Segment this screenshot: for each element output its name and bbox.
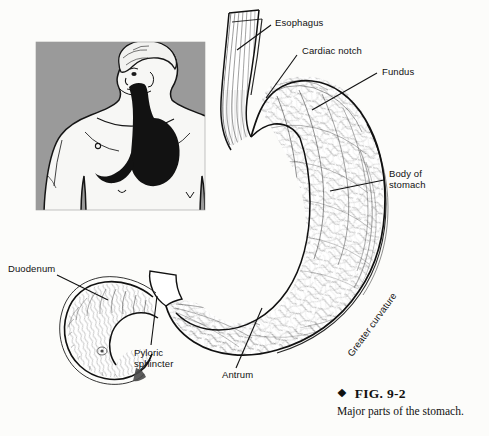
eye: [131, 72, 136, 76]
duodenum-structure: [60, 271, 182, 390]
label-body-of-stomach: Body of stomach: [389, 168, 426, 190]
esophagus-structure: [218, 10, 262, 152]
floral-diamond-icon: ❖: [337, 387, 347, 399]
figure-number: FIG. 9-2: [355, 386, 406, 401]
figure-container: Esophagus Cardiac notch Fundus Body of s…: [0, 0, 489, 436]
label-pyloric-sphincter: Pyloric sphincter: [134, 347, 173, 369]
label-esophagus: Esophagus: [275, 17, 323, 28]
figure-caption: ❖ FIG. 9-2 Major parts of the stomach.: [337, 386, 464, 417]
label-antrum: Antrum: [222, 369, 253, 380]
label-cardiac-notch: Cardiac notch: [302, 45, 362, 56]
pyloric-canal: [150, 271, 182, 306]
figure-caption-text: Major parts of the stomach.: [337, 405, 464, 417]
figure-number-line: ❖ FIG. 9-2: [337, 386, 464, 402]
orientation-inset: [36, 41, 242, 216]
label-fundus: Fundus: [382, 66, 414, 77]
label-duodenum: Duodenum: [8, 263, 55, 274]
